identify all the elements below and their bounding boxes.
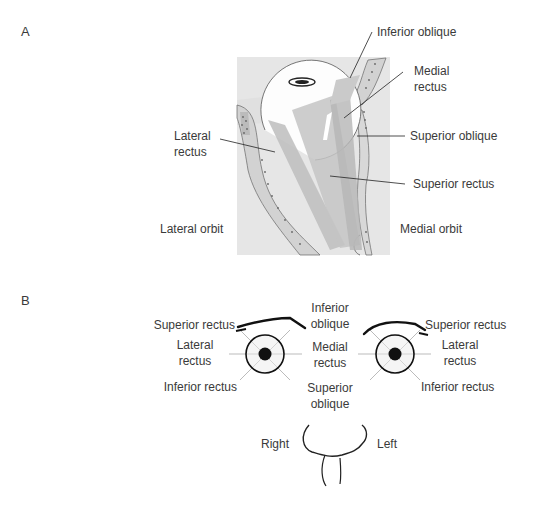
center-inferior-oblique-line2: oblique bbox=[298, 317, 362, 332]
center-medial-rectus-line1: Medial bbox=[298, 340, 362, 355]
right-eye-lateral-rectus-line2: rectus bbox=[160, 354, 230, 369]
left-eye-lateral-rectus-line2: rectus bbox=[430, 354, 490, 369]
label-medial-orbit: Medial orbit bbox=[400, 222, 462, 237]
label-medial-rectus-line2: rectus bbox=[414, 80, 447, 95]
right-eye-superior-rectus: Superior rectus bbox=[140, 318, 235, 333]
orbit-anatomy-illustration bbox=[0, 0, 548, 508]
label-left-side: Left bbox=[377, 437, 397, 452]
label-right-side: Right bbox=[261, 437, 289, 452]
left-eye-inferior-rectus: Inferior rectus bbox=[421, 380, 494, 395]
label-inferior-oblique: Inferior oblique bbox=[377, 25, 456, 40]
center-superior-oblique-line2: oblique bbox=[298, 397, 362, 412]
label-lateral-rectus-line2: rectus bbox=[174, 145, 207, 160]
panel-b-letter: B bbox=[21, 293, 30, 308]
center-medial-rectus-line2: rectus bbox=[298, 356, 362, 371]
right-eye-inferior-rectus: Inferior rectus bbox=[140, 380, 237, 395]
label-superior-rectus: Superior rectus bbox=[413, 177, 494, 192]
left-eye-superior-rectus: Superior rectus bbox=[425, 318, 506, 333]
center-superior-oblique-line1: Superior bbox=[298, 381, 362, 396]
center-inferior-oblique-line1: Inferior bbox=[298, 301, 362, 316]
right-eye-lateral-rectus-line1: Lateral bbox=[160, 338, 230, 353]
label-medial-rectus-line1: Medial bbox=[414, 64, 449, 79]
panel-a-letter: A bbox=[21, 24, 30, 39]
label-lateral-orbit: Lateral orbit bbox=[160, 222, 223, 237]
left-eye-lateral-rectus-line1: Lateral bbox=[430, 338, 490, 353]
label-superior-oblique: Superior oblique bbox=[410, 129, 497, 144]
label-lateral-rectus-line1: Lateral bbox=[174, 129, 211, 144]
